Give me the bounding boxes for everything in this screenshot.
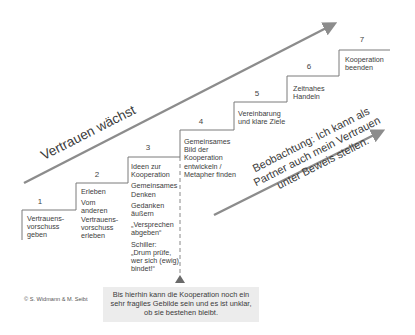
note-line-3: ob sie bestehen bleibt.: [103, 308, 259, 317]
step-3-item: Gedanken äußern: [131, 202, 179, 218]
step-3-item: Ideen zur Kooperation: [131, 163, 179, 179]
step-1-item: Vertrauens- vorschuss geben: [27, 215, 64, 240]
step-5-item: Vereinbarung und klare Ziele: [238, 110, 285, 126]
step-4-text: Gemeinsames Bild der Kooperation entwick…: [184, 138, 236, 182]
step-6-text: Zeitnahes Handeln: [293, 85, 325, 104]
step-number-3: 3: [138, 143, 158, 152]
step-number-5: 5: [247, 89, 267, 98]
step-7-item: Kooperation beenden: [345, 56, 384, 72]
note-line-1: Bis hierhin kann die Kooperation noch ei…: [103, 290, 259, 299]
step-7-text: Kooperation beenden: [345, 56, 384, 75]
step-4-item: Gemeinsames Bild der Kooperation entwick…: [184, 138, 236, 179]
step-2-text: Erleben Vom anderen Vertrauens- vorschus…: [81, 188, 118, 243]
step-3-item: „Versprechen abgeben“: [131, 221, 179, 237]
step-6-item: Zeitnahes Handeln: [293, 85, 325, 101]
step-number-1: 1: [30, 197, 50, 206]
step-3-text: Ideen zur Kooperation Gemeinsames Denken…: [131, 163, 179, 276]
step-number-7: 7: [352, 35, 372, 44]
step-number-6: 6: [299, 62, 319, 71]
copyright: © S. Widmann & M. Seibt: [24, 296, 88, 302]
step-number-4: 4: [191, 117, 211, 126]
step-3-item: Gemeinsames Denken: [131, 182, 179, 198]
fragility-note: Bis hierhin kann die Kooperation noch ei…: [103, 287, 259, 322]
step-3-item: Schiller: „Drum prüfe, wer sich (ewig) b…: [131, 241, 179, 274]
step-1-text: Vertrauens- vorschuss geben: [27, 215, 64, 243]
step-number-2: 2: [87, 170, 107, 179]
step-5-text: Vereinbarung und klare Ziele: [238, 110, 285, 129]
step-2-item: Erleben: [81, 188, 118, 196]
step-2-item: Vom anderen Vertrauens- vorschuss erlebe…: [81, 199, 118, 240]
note-line-2: sehr fragiles Gebilde sein und es ist un…: [103, 299, 259, 308]
